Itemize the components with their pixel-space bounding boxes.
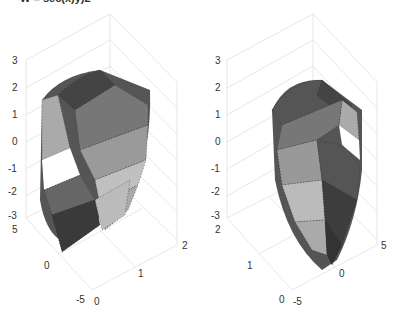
z-tick: 1 — [215, 109, 221, 120]
left-plot-graphics — [0, 0, 196, 315]
z-tick: 3 — [215, 55, 221, 66]
x-tick: 1 — [247, 260, 253, 271]
z-tick: -2 — [8, 186, 17, 197]
y-tick: -5 — [76, 294, 85, 305]
left-3d-plot: 3 2 1 0 -1 -2 -3 5 0 -5 0 1 2 — [0, 0, 196, 315]
z-tick: -1 — [8, 163, 17, 174]
right-plot-graphics — [197, 0, 393, 315]
x-tick: 0 — [94, 296, 100, 307]
right-3d-plot: 3 2 1 0 -1 -2 -3 2 1 0 -5 0 5 — [197, 0, 393, 315]
z-tick: -3 — [8, 210, 17, 221]
y-tick: 0 — [44, 260, 50, 271]
z-tick: 0 — [215, 136, 221, 147]
x-tick: 1 — [138, 268, 144, 279]
y-tick: -5 — [293, 296, 302, 307]
z-tick: 0 — [12, 136, 18, 147]
y-tick: 0 — [339, 268, 345, 279]
z-tick: 1 — [12, 109, 18, 120]
x-tick: 2 — [182, 240, 188, 251]
x-tick: 0 — [279, 294, 285, 305]
z-tick: 3 — [12, 55, 18, 66]
z-tick: -1 — [211, 163, 220, 174]
z-tick: -3 — [211, 210, 220, 221]
x-tick: 2 — [215, 224, 221, 235]
y-tick: 5 — [381, 240, 387, 251]
z-tick: 2 — [12, 82, 18, 93]
z-tick: -2 — [211, 186, 220, 197]
y-tick: 5 — [12, 224, 18, 235]
z-tick: 2 — [215, 82, 221, 93]
